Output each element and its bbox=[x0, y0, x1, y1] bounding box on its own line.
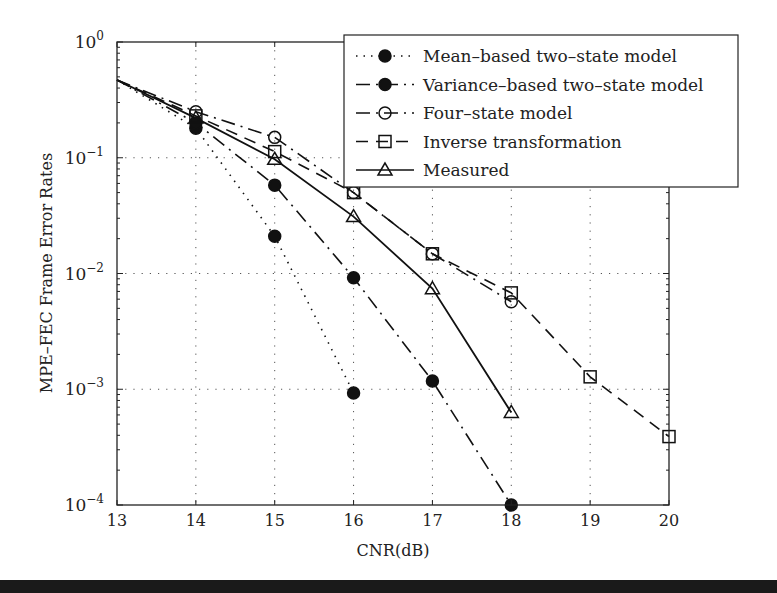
x-tick-labels: 1314151617181920 bbox=[107, 511, 679, 530]
x-tick-label: 16 bbox=[343, 511, 363, 530]
y-tick-label: 10−3 bbox=[65, 376, 104, 399]
x-tick-label: 15 bbox=[265, 511, 285, 530]
marker-filled-circle bbox=[269, 179, 281, 191]
y-tick-label: 100 bbox=[75, 29, 104, 52]
y-tick-label: 10−4 bbox=[65, 492, 105, 515]
x-axis-label: CNR(dB) bbox=[357, 541, 430, 560]
x-tick-label: 17 bbox=[422, 511, 442, 530]
series-0 bbox=[117, 80, 360, 399]
marker-filled-circle bbox=[426, 375, 438, 387]
legend-item-label: Inverse transformation bbox=[423, 132, 622, 152]
legend: Mean–based two–state modelVariance–based… bbox=[344, 35, 738, 187]
x-tick-label: 14 bbox=[186, 511, 206, 530]
x-tick-label: 18 bbox=[501, 511, 521, 530]
y-tick-labels: 10010−110−210−310−4 bbox=[65, 29, 105, 515]
marker-filled-circle bbox=[379, 50, 391, 62]
legend-item-label: Four–state model bbox=[423, 103, 572, 123]
marker-filled-circle bbox=[269, 230, 281, 242]
marker-filled-circle bbox=[348, 272, 360, 284]
y-tick-label: 10−1 bbox=[65, 145, 104, 168]
y-tick-label: 10−2 bbox=[65, 261, 104, 284]
page-bottom-rule bbox=[0, 580, 777, 593]
marker-filled-circle bbox=[379, 79, 391, 91]
legend-item-label: Mean–based two–state model bbox=[423, 46, 677, 66]
y-axis-label: MPE–FEC Frame Error Rates bbox=[37, 153, 56, 393]
legend-item-label: Measured bbox=[423, 160, 509, 180]
x-tick-label: 20 bbox=[659, 511, 679, 530]
x-tick-label: 13 bbox=[107, 511, 127, 530]
legend-item-label: Variance–based two–state model bbox=[422, 75, 704, 95]
x-tick-label: 19 bbox=[580, 511, 600, 530]
chart: 1314151617181920 10010−110−210−310−4 CNR… bbox=[0, 0, 777, 593]
marker-filled-circle bbox=[348, 387, 360, 399]
